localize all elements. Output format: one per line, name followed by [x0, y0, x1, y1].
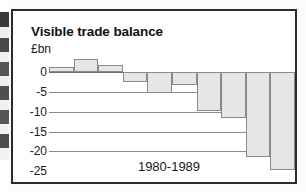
y-tick-label-20: -20 [15, 145, 47, 157]
y-tick-label-5: -5 [15, 86, 47, 98]
bar-1985 [172, 72, 197, 85]
bar-1980 [49, 67, 74, 72]
bar-1984 [147, 72, 172, 93]
plot-area: 0 -5 -10 -15 -20 -25 1980-1989 [13, 11, 295, 182]
bar-1988 [246, 72, 271, 157]
y-tick-label-15: -15 [15, 126, 47, 138]
bar-1987 [221, 72, 246, 118]
y-tick-label-0: 0 [15, 66, 47, 78]
bar-1983 [123, 72, 148, 82]
chart-frame: Visible trade balance £bn 0 -5 -10 -15 -… [11, 9, 297, 184]
y-tick-label-10: -10 [15, 106, 47, 118]
bar-series [49, 11, 295, 182]
bar-1981 [74, 59, 99, 72]
bar-1986 [197, 72, 222, 111]
chart-figure: Visible trade balance £bn 0 -5 -10 -15 -… [0, 0, 306, 192]
scan-edge-artifact [0, 0, 9, 192]
bar-1982 [98, 65, 123, 72]
x-axis-caption: 1980-1989 [13, 159, 295, 174]
bar-1989 [270, 72, 295, 170]
